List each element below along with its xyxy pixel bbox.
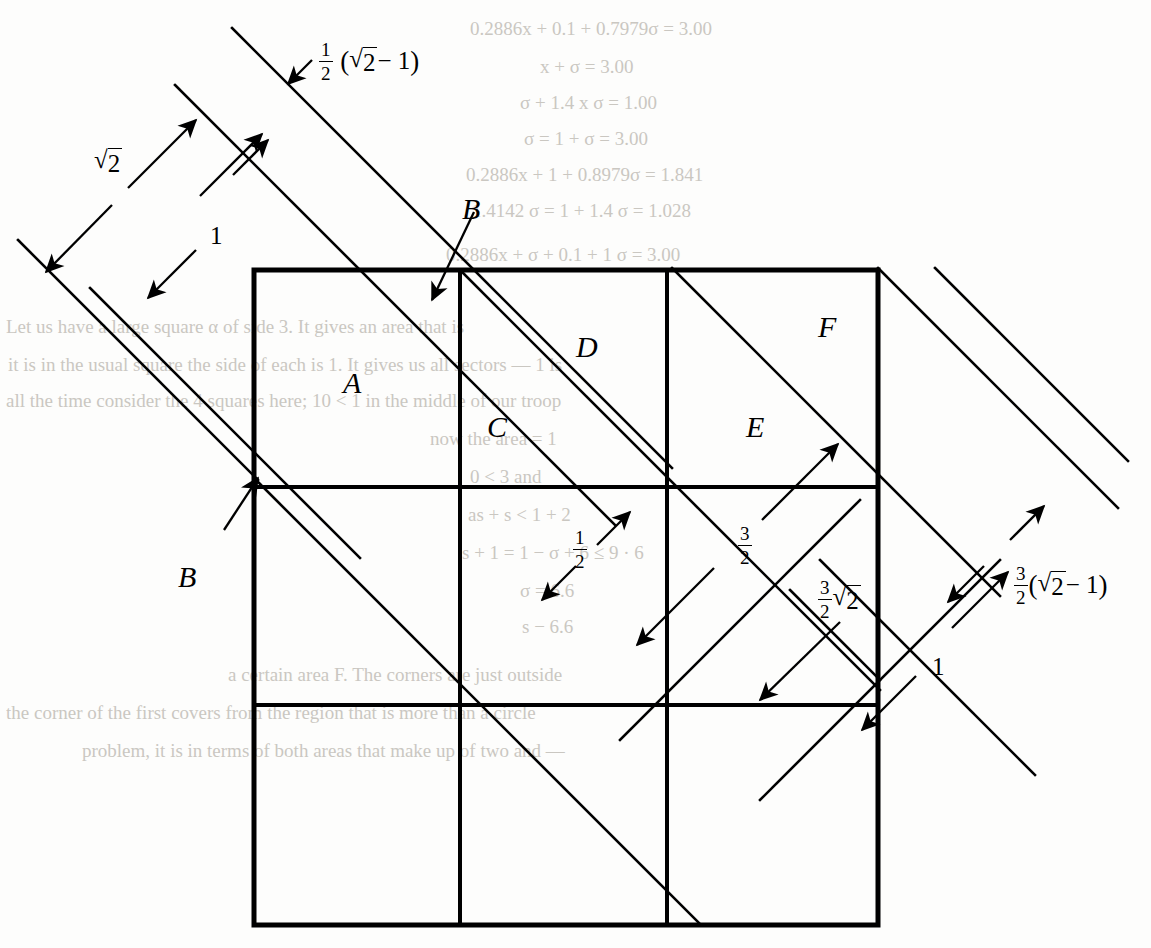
figure-page: 0.2886x + 0.1 + 0.7979σ = 3.00x + σ = 3.… [0,0,1151,948]
measure-label-three-halves-sqrt2: 3 2 √ 2 [817,578,861,621]
radical-sqrt2: √ 2 [833,585,861,613]
radical-sqrt2: √ 2 [1038,571,1066,599]
arrow-sqrt2-down [46,205,112,272]
close-paren: ) [410,46,419,77]
fraction-bar [319,61,333,63]
region-label-E: E [746,410,764,444]
region-label-B-top: B [462,192,480,226]
measure-label-three-halves-sqrt2-minus-1: 3 2 ( √ 2 − 1 ) [1013,564,1108,607]
measure-label-half-sqrt2-minus-1: 1 2 ( √ 2 − 1 ) [318,40,419,83]
arrow-r-threehalf-up [1010,506,1044,540]
arrow-threehalf-up [762,444,838,520]
measure-label-one-right: 1 [932,653,945,681]
radical-sqrt2: √ 2 [94,148,122,176]
fraction-bar [738,545,752,547]
measure-label-three-halves: 3 2 [737,524,753,567]
open-paren: ( [334,46,350,77]
minus-one: − 1 [377,47,410,75]
diagonal-line-outer-upper [232,28,672,468]
close-paren: ) [1099,570,1108,601]
region-label-A: A [343,366,361,400]
diagonal-line-inner-upper [175,85,615,525]
measure-label-one-left: 1 [210,222,223,250]
open-paren: ( [1029,570,1038,601]
diagonal-line-top-right-2 [935,268,1128,461]
region-label-C: C [487,410,507,444]
region-label-F: F [818,310,836,344]
diagonal-line-top-right [878,268,1118,508]
diagonal-line-far-left-2 [90,288,360,558]
arrow-r-threehalf-down [948,566,984,602]
minus-one: − 1 [1066,571,1099,599]
arrow-one-left-down [148,250,196,298]
arrow-threehalf-down [637,568,714,645]
arrow-half-up [597,512,630,545]
arrow-sqrt2-up [128,120,196,188]
fraction-three-halves: 3 2 [818,578,832,621]
fraction-three-halves: 3 2 [738,524,752,567]
diagonal-line-far-left [18,240,258,480]
fraction-one-half: 1 2 [573,528,587,571]
measure-label-sqrt2: √ 2 [94,148,122,176]
fraction-bar [573,549,587,551]
fraction-one-half: 1 2 [319,40,333,83]
arrow-half-down [542,566,576,600]
fraction-three-halves: 3 2 [1014,564,1028,607]
fraction-bar [1014,585,1028,587]
radical-sqrt2: √ 2 [349,47,377,75]
measure-label-one-half: 1 2 [572,528,588,571]
arrow-half-sqrt2m1 [288,60,312,84]
arrow-threehalf-sqrt2 [760,622,840,700]
diagonal-construction-lines [18,28,1128,924]
fraction-bar [818,599,832,601]
arrow-one-left-up [200,134,262,196]
diagram-canvas [0,0,1151,948]
region-label-B-left: B [178,560,196,594]
region-label-D: D [576,330,598,364]
